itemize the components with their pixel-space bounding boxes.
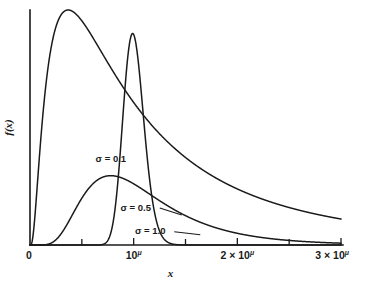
- tick-label-exponent: μ: [344, 249, 350, 257]
- annotation-leader-lines: [160, 208, 201, 235]
- x-axis-title: x: [167, 267, 174, 279]
- lognormal-pdf-figure: 010μ2 × 10μ3 × 10μ σ = 0.1σ = 0.5σ = 1.0…: [0, 0, 371, 282]
- tick-label-exponent: μ: [249, 249, 255, 257]
- pdf-curve-sigma-1: [30, 10, 341, 245]
- x-axis-tick-label: 2 × 10μ: [220, 249, 254, 261]
- pdf-curve-sigma-0-5: [30, 176, 341, 245]
- tick-label-exponent: μ: [136, 249, 142, 257]
- x-axis-tick-label: 10μ: [126, 249, 143, 261]
- x-axis-tick-label: 3 × 10μ: [315, 249, 350, 261]
- curve-label-1: σ = 0.1: [96, 153, 127, 164]
- pdf-curve-sigma-0-1: [30, 34, 341, 246]
- y-axis-title: f(x): [2, 119, 15, 136]
- chart-canvas: 010μ2 × 10μ3 × 10μ σ = 0.1σ = 0.5σ = 1.0…: [0, 0, 371, 282]
- curve-label-3: σ = 1.0: [135, 225, 166, 236]
- curve-label-2: σ = 0.5: [120, 202, 151, 213]
- x-axis-tick-labels: 010μ2 × 10μ3 × 10μ: [26, 249, 350, 261]
- leader-line-sigma-1-0: [174, 232, 200, 235]
- curve-annotations: σ = 0.1σ = 0.5σ = 1.0: [96, 153, 166, 236]
- curves-group: [30, 10, 341, 245]
- x-axis-tick-label: 0: [26, 249, 32, 261]
